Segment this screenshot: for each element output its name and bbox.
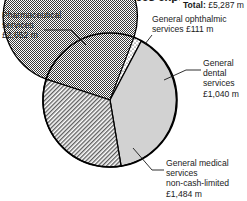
pie-label-general-ophthalmic-services: General ophthalmic services £111 m <box>152 14 227 34</box>
pie-label-general-medical-services: General medical services non-cash-limite… <box>166 158 229 199</box>
pie-label-dental-line2: dental <box>203 68 239 78</box>
pie-label-pharmaceutical-line1: Pharmaceutical <box>2 10 61 20</box>
pie-label-general-dental-services: General dental services £1,040 m <box>203 58 239 99</box>
leader-line-ophthalmic <box>145 35 152 44</box>
pie-label-medical-line1: General medical <box>166 158 229 168</box>
pie-chart-figure: Family health services expenditure 1990-… <box>0 0 247 201</box>
pie-label-dental-value: £1,040 m <box>203 89 239 99</box>
pie-label-pharmaceutical-line2: services <box>2 20 61 30</box>
pie-label-pharmaceutical-services: Pharmaceutical services £2,652 m <box>2 10 61 41</box>
pie-label-dental-line3: services <box>203 78 239 88</box>
pie-label-ophthalmic-line2: services £111 m <box>152 24 227 34</box>
pie-label-medical-line3: non-cash-limited <box>166 178 229 188</box>
pie-label-dental-line1: General <box>203 58 239 68</box>
pie-label-medical-value: £1,484 m <box>166 189 229 199</box>
pie-label-medical-line2: services <box>166 168 229 178</box>
pie-label-ophthalmic-line1: General ophthalmic <box>152 14 227 24</box>
pie-label-pharmaceutical-value: £2,652 m <box>2 30 61 40</box>
